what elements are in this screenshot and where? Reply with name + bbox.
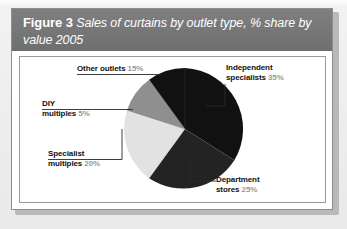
slice-label-independent-specialists-line2: specialists: [226, 73, 266, 82]
slice-label-specialist-multiples-line1: Specialist: [48, 149, 84, 158]
figure-header-line1: Figure 3 Sales of curtains by outlet typ…: [23, 14, 320, 32]
slice-label-specialist-multiples: Specialist multiples 20%: [48, 149, 100, 168]
slice-label-diy-multiples: DIY multiples 5%: [42, 99, 90, 118]
slice-label-other-outlets-text: Other outlets: [77, 64, 125, 73]
slice-value-department-stores: 25%: [242, 185, 258, 194]
slice-label-specialist-multiples-line2: multiples: [48, 159, 82, 168]
figure-header: Figure 3 Sales of curtains by outlet typ…: [12, 9, 332, 51]
slice-label-diy-multiples-line1: DIY: [42, 99, 55, 108]
slice-value-diy-multiples: 5%: [78, 109, 89, 118]
slice-value-other-outlets: 15%: [128, 64, 144, 73]
pie-chart: Other outlets 15% Independent specialist…: [20, 57, 326, 203]
figure-title-part1: Sales of curtains by outlet type, % shar…: [76, 16, 311, 30]
figure-title-part2: value 2005: [23, 33, 83, 47]
slice-value-specialist-multiples: 20%: [84, 159, 100, 168]
slice-value-independent-specialists: 35%: [268, 73, 284, 82]
slice-label-diy-multiples-line2: multiples: [42, 109, 76, 118]
slice-label-department-stores-line2: stores: [216, 185, 239, 194]
figure-number: Figure 3: [23, 15, 73, 30]
slice-label-independent-specialists-line1: Independent: [226, 63, 272, 72]
figure-header-line2: value 2005: [23, 32, 320, 49]
chart-panel: Other outlets 15% Independent specialist…: [19, 56, 326, 203]
slice-label-department-stores-line1: Department: [216, 175, 259, 184]
figure-card: Figure 3 Sales of curtains by outlet typ…: [11, 8, 333, 210]
slice-label-department-stores: Department stores 25%: [216, 175, 259, 194]
slice-label-other-outlets: Other outlets 15%: [77, 64, 143, 74]
slice-label-independent-specialists: Independent specialists 35%: [226, 63, 284, 82]
